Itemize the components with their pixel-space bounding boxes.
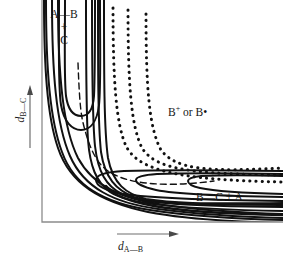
x-axis-arrow-icon	[117, 231, 179, 237]
reactant-line-1: A—B	[46, 8, 82, 21]
contour-dotted-1	[113, 8, 283, 182]
contour-dotted-2	[128, 10, 283, 175]
contour-dotted-3	[146, 14, 283, 170]
contour-plot-canvas	[0, 0, 283, 259]
x-axis-label-subscript: A—B	[124, 245, 143, 254]
reactant-line-3: C	[46, 34, 82, 47]
y-axis-label: dB—C	[14, 88, 26, 132]
reactant-line-2: +	[46, 21, 82, 34]
radical-base: B	[168, 106, 176, 118]
reactant-valley-label: A—B + C	[46, 8, 82, 47]
contour-figure: A—B + C B+ or B• B—C + A dA—B dB—C	[0, 0, 283, 259]
y-axis-label-d: d	[14, 117, 26, 123]
product-valley-label: B—C + A	[196, 191, 243, 203]
radical-region-label: B+ or B•	[168, 106, 207, 118]
y-axis-label-subscript: B—C	[19, 98, 28, 117]
x-axis-label: dA—B	[118, 240, 143, 252]
radical-suffix: or B•	[180, 106, 207, 118]
